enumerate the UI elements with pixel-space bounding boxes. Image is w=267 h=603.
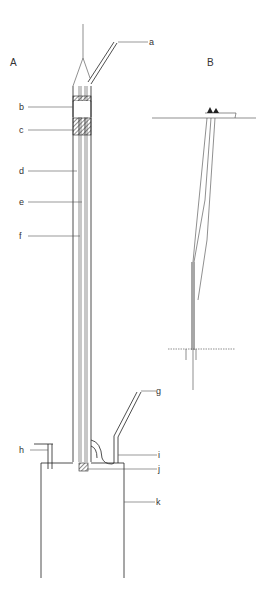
part-label-b: b [19,102,24,112]
container-left-wall [41,463,73,578]
part-label-j: j [157,464,160,474]
diagram-canvas: A a b c d e [0,0,267,603]
part-label-g: g [156,386,161,396]
side-arm-inner [91,446,97,458]
tether-right [198,118,215,300]
tether-mid [194,118,211,262]
panel-a-label: A [10,57,17,68]
tube-g-outer-upper [114,392,137,436]
part-label-i: i [158,450,160,460]
part-label-d: d [19,166,24,176]
seal-c [73,118,91,135]
part-label-f: f [19,231,22,241]
part-label-e: e [19,197,24,207]
panel-b-label: B [207,57,214,68]
part-label-a: a [149,37,154,47]
part-label-h: h [19,445,24,455]
part-label-c: c [19,125,24,135]
container-right-wall [91,463,124,578]
boat-hull [205,113,236,118]
panel-b: B [152,57,256,390]
conical-tip [73,58,90,86]
side-tube-a-inner [91,43,117,84]
tether-left [193,118,207,262]
panel-a: A a b c d e [10,24,161,578]
person-1-icon [207,107,213,113]
person-2-icon [213,108,219,113]
part-label-k: k [156,497,161,507]
gap-b [74,101,90,117]
tube-g-inner-upper [118,392,141,437]
seal-b [73,96,91,101]
side-tube-a-outer [88,42,114,82]
plug-j [79,463,88,471]
